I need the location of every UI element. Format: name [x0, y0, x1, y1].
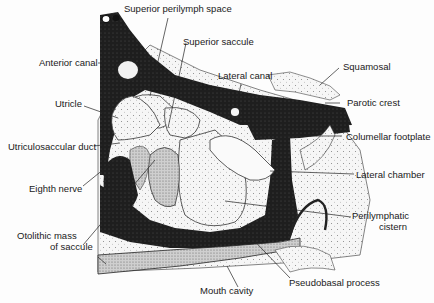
label-lateral-canal: Lateral canal [218, 71, 272, 81]
top-nub-1 [102, 16, 110, 23]
label-parotic-crest: Parotic crest [347, 98, 400, 108]
label-utricle: Utricle [55, 99, 82, 109]
label-otolithic-mass-line2: of saccule [50, 242, 93, 252]
top-nub-2 [113, 15, 120, 21]
anterior-canal-ring [117, 60, 139, 80]
label-utriculosaccular-duct: Utriculosaccular duct [8, 142, 96, 152]
label-columellar-footplate: Columellar footplate [346, 132, 431, 142]
lateral-canal-ring [230, 107, 240, 117]
anatomy-figure: Superior perilymph space Superior saccul… [0, 0, 434, 303]
label-superior-saccule: Superior saccule [183, 37, 254, 47]
label-pseudobasal-process: Pseudobasal process [289, 278, 380, 288]
label-anterior-canal: Anterior canal [39, 58, 98, 68]
label-squamosal: Squamosal [343, 62, 391, 72]
label-otolithic-mass-line1: Otolithic mass [17, 231, 77, 241]
label-eighth-nerve: Eighth nerve [29, 184, 82, 194]
label-perilymphatic-line1: Perilymphatic [352, 211, 409, 221]
label-superior-perilymph-space: Superior perilymph space [124, 4, 232, 14]
label-mouth-cavity: Mouth cavity [200, 286, 253, 296]
label-lateral-chamber: Lateral chamber [356, 170, 425, 180]
label-perilymphatic-line2: cistern [379, 222, 407, 232]
